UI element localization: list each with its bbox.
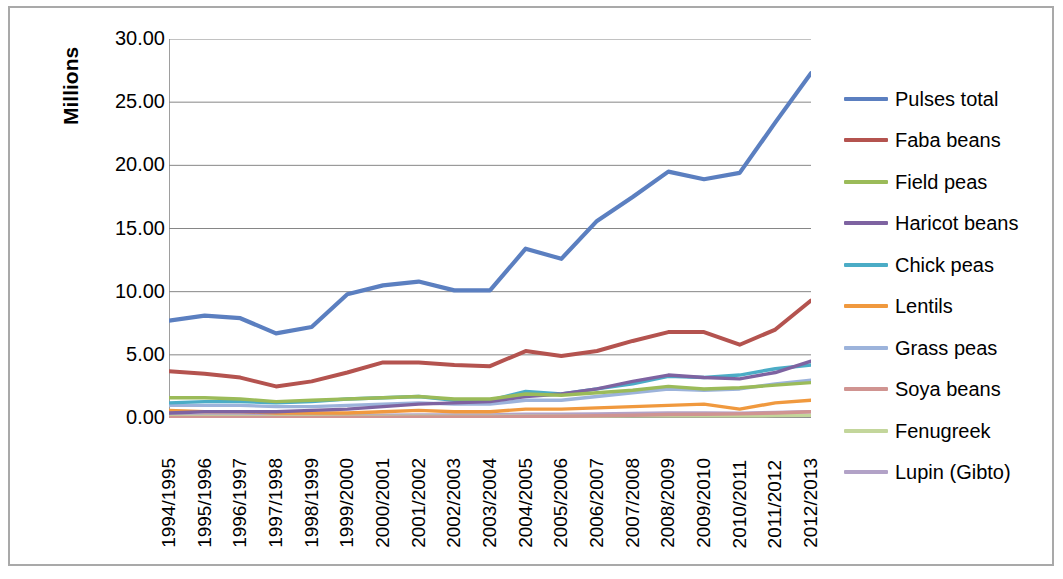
y-axis-tick-label: 10.00: [60, 281, 165, 301]
x-axis-tick-label: 1998/1999: [302, 458, 321, 548]
legend-color-swatch: [844, 470, 888, 474]
x-axis-tick-label: 1995/1996: [195, 458, 214, 548]
series-line: [169, 301, 811, 387]
plot-svg: [169, 39, 811, 418]
x-axis-tick-label: 2003/2004: [480, 458, 499, 548]
plot-area: [169, 39, 811, 418]
chart-container: Millions 30.0025.0020.0015.0010.005.000.…: [8, 6, 1054, 566]
legend-item[interactable]: Lentils: [844, 286, 1062, 328]
y-axis-tick-labels: 30.0025.0020.0015.0010.005.000.00: [50, 8, 165, 448]
legend-item[interactable]: Fenugreek: [844, 410, 1062, 452]
x-axis-tick-label: 1996/1997: [230, 458, 249, 548]
x-axis-tick-label: 2009/2010: [694, 458, 713, 548]
y-axis-tick-label: 30.00: [60, 28, 165, 48]
legend-color-swatch: [844, 304, 888, 308]
x-axis-tick-label: 2005/2006: [551, 458, 570, 548]
x-axis-tick-labels: 1994/19951995/19961996/19971997/19981998…: [169, 423, 811, 548]
legend-label: Pulses total: [895, 89, 998, 109]
legend-item[interactable]: Faba beans: [844, 120, 1062, 162]
legend-item[interactable]: Grass peas: [844, 327, 1062, 369]
legend-label: Soya beans: [895, 379, 1001, 399]
legend-item[interactable]: Lupin (Gibto): [844, 452, 1062, 494]
y-axis-tick-label: 20.00: [60, 154, 165, 174]
legend-color-swatch: [844, 346, 888, 350]
x-axis-tick-label: 2006/2007: [587, 458, 606, 548]
legend-item[interactable]: Field peas: [844, 161, 1062, 203]
legend-label: Faba beans: [895, 130, 1001, 150]
x-axis-tick-label: 2007/2008: [623, 458, 642, 548]
legend-color-swatch: [844, 97, 888, 101]
legend-item[interactable]: Pulses total: [844, 78, 1062, 120]
legend-color-swatch: [844, 429, 888, 433]
x-axis-tick-label: 1997/1998: [266, 458, 285, 548]
legend-label: Fenugreek: [895, 421, 991, 441]
x-axis-tick-label: 1999/2000: [337, 458, 356, 548]
legend-label: Field peas: [895, 172, 987, 192]
legend-label: Haricot beans: [895, 213, 1018, 233]
x-axis-tick-label: 2011/2012: [765, 460, 784, 548]
x-axis-tick-label: 2002/2003: [444, 458, 463, 548]
x-axis-tick-label: 2008/2009: [658, 458, 677, 548]
y-axis-tick-label: 0.00: [60, 407, 165, 427]
y-axis-tick-label: 25.00: [60, 91, 165, 111]
y-axis-tick-label: 5.00: [60, 344, 165, 364]
legend-color-swatch: [844, 387, 888, 391]
x-axis-tick-label: 1994/1995: [159, 458, 178, 548]
chart-legend: Pulses totalFaba beansField peasHaricot …: [844, 78, 1062, 493]
legend-label: Lupin (Gibto): [895, 462, 1011, 482]
x-axis-tick-label: 2000/2001: [373, 458, 392, 548]
legend-item[interactable]: Chick peas: [844, 244, 1062, 286]
legend-color-swatch: [844, 138, 888, 142]
legend-item[interactable]: Soya beans: [844, 369, 1062, 411]
x-axis-tick-label: 2001/2002: [409, 458, 428, 548]
legend-color-swatch: [844, 263, 888, 267]
series-line: [169, 73, 811, 333]
legend-color-swatch: [844, 221, 888, 225]
x-axis-tick-label: 2004/2005: [516, 458, 535, 548]
legend-label: Chick peas: [895, 255, 994, 275]
y-axis-tick-label: 15.00: [60, 218, 165, 238]
x-axis-tick-label: 2012/2013: [801, 458, 820, 548]
x-axis-tick-label: 2010/2011: [730, 460, 749, 548]
legend-label: Grass peas: [895, 338, 997, 358]
legend-color-swatch: [844, 180, 888, 184]
legend-item[interactable]: Haricot beans: [844, 203, 1062, 245]
legend-label: Lentils: [895, 296, 953, 316]
